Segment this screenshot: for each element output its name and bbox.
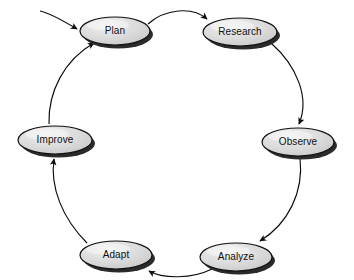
node-research-label: Research — [218, 26, 262, 37]
node-plan-label: Plan — [105, 25, 125, 36]
edge-adapt-to-improve[interactable] — [53, 159, 87, 243]
edge-analyze-to-adapt[interactable] — [149, 269, 212, 277]
node-analyze-label: Analyze — [218, 251, 255, 262]
edge-entry-to-plan[interactable] — [40, 11, 77, 29]
edge-observe-to-analyze[interactable] — [260, 158, 301, 241]
node-observe[interactable]: Observe — [262, 128, 337, 160]
node-adapt-label: Adapt — [103, 249, 130, 260]
node-adapt[interactable]: Adapt — [80, 241, 155, 273]
edge-research-to-observe[interactable] — [271, 43, 303, 124]
cycle-diagram: Plan Research Observe Analyze — [0, 0, 354, 280]
edge-improve-to-plan[interactable] — [49, 43, 94, 124]
node-research[interactable]: Research — [203, 18, 280, 50]
node-observe-label: Observe — [279, 136, 318, 147]
node-improve-label: Improve — [37, 134, 74, 145]
node-improve[interactable]: Improve — [18, 126, 95, 158]
diagram-canvas: Plan Research Observe Analyze — [0, 0, 354, 280]
edge-plan-to-research[interactable] — [148, 11, 207, 24]
node-plan[interactable]: Plan — [80, 17, 153, 49]
